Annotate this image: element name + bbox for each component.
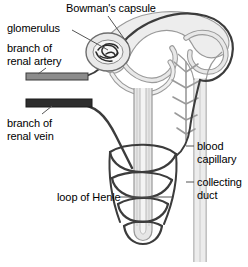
renal-artery-bar <box>26 73 88 80</box>
label-glomerulus: glomerulus <box>7 22 60 35</box>
label-branch-of-renal-artery: branch of renal artery <box>7 42 61 67</box>
renal-vein-bar <box>26 99 92 107</box>
label-bowmans-capsule: Bowman's capsule <box>66 2 156 15</box>
nephron-diagram: Bowman's capsule glomerulus branch of re… <box>0 0 248 267</box>
label-collecting-duct: collecting duct <box>197 176 242 201</box>
venule-to-medulla <box>74 104 132 168</box>
renal-vessel-bars <box>26 73 92 107</box>
label-loop-of-henle: loop of Henle <box>57 191 121 204</box>
label-blood-capillary: blood capillary <box>197 140 236 165</box>
label-branch-of-renal-vein: branch of renal vein <box>7 117 54 142</box>
loop-of-henle <box>134 88 152 241</box>
loop-of-henle-inner <box>140 88 146 234</box>
glomerulus-shape <box>86 33 130 71</box>
